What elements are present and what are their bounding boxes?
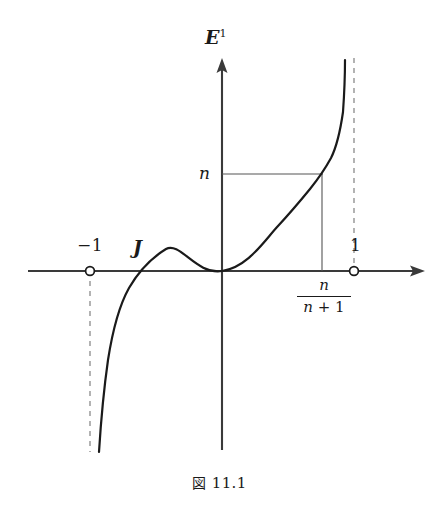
- figure-caption: 図11.1: [0, 472, 439, 492]
- tick-label-n: n: [199, 165, 210, 182]
- open-endpoint-right: [350, 267, 359, 276]
- open-endpoint-left: [86, 267, 95, 276]
- x-axis-label-J: J: [133, 238, 142, 257]
- tick-label-minus-one: −1: [77, 237, 103, 254]
- y-axis-label: E1: [205, 28, 226, 47]
- y-axis-label-base: E: [205, 26, 219, 48]
- fraction-denominator-rest: + 1: [313, 298, 345, 316]
- y-axis-label-superscript: 1: [219, 27, 226, 40]
- fraction-numerator: n: [294, 277, 354, 296]
- figure-container: E1 J −1 1 n n n + 1 図11.1: [0, 0, 439, 515]
- tick-label-n-over-n-plus-1: n n + 1: [294, 277, 354, 316]
- fraction-denominator: n + 1: [294, 297, 354, 317]
- plot-canvas: [0, 0, 439, 515]
- caption-number: 11.1: [212, 474, 247, 492]
- tick-label-one: 1: [350, 237, 361, 254]
- caption-figure-character: 図: [192, 475, 206, 491]
- fraction-denominator-variable: n: [303, 298, 313, 316]
